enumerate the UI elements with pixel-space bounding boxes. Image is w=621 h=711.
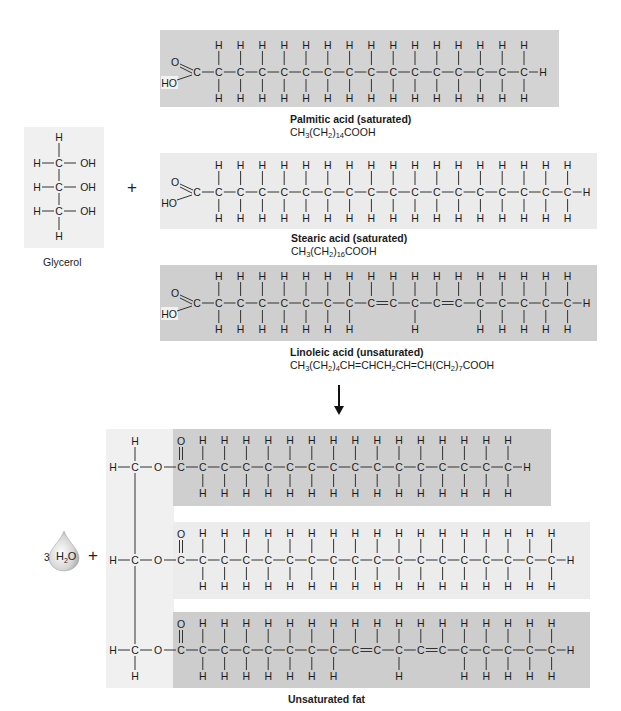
hydrogen-atom: H: [433, 39, 441, 51]
hydroxyl-group: OH: [80, 157, 96, 169]
hydroxyl-group: HO: [161, 77, 177, 89]
hydrogen-atom: H: [477, 39, 485, 51]
carbon-atom: C: [548, 644, 556, 656]
hydrogen-atom: H: [373, 580, 381, 592]
hydrogen-atom: H: [389, 212, 397, 224]
hydrogen-atom: H: [308, 580, 316, 592]
hydrogen-atom: H: [542, 270, 550, 282]
carbon-atom: C: [520, 66, 528, 78]
carbon-atom: C: [368, 186, 376, 198]
water-coefficient: 3: [44, 552, 50, 563]
hydrogen-atom: H: [389, 270, 397, 282]
hydrogen-atom: H: [324, 92, 332, 104]
hydrogen-atom: H: [33, 157, 41, 169]
carbon-atom: C: [433, 186, 441, 198]
hydrogen-atom: H: [330, 434, 338, 446]
carbonyl-oxygen: O: [177, 435, 185, 447]
carbon-atom: C: [411, 186, 419, 198]
hydrogen-atom: H: [243, 670, 251, 682]
carbon-atom: C: [504, 554, 512, 566]
carbon-atom: C: [259, 297, 267, 309]
hydrogen-atom: H: [109, 461, 117, 473]
hydroxyl-group: OH: [80, 181, 96, 193]
water-o: O: [68, 550, 77, 562]
carbon-atom: C: [324, 297, 332, 309]
hydrogen-atom: H: [286, 617, 294, 629]
hydrogen-atom: H: [286, 580, 294, 592]
hydrogen-atom: H: [548, 670, 556, 682]
hydrogen-atom: H: [461, 617, 469, 629]
hydrogen-atom: H: [243, 527, 251, 539]
hydrogen-atom: H: [564, 212, 572, 224]
hydrogen-atom: H: [477, 212, 485, 224]
carbon-atom: C: [542, 297, 550, 309]
carbon-atom: C: [411, 66, 419, 78]
product-plus-sign: +: [88, 546, 98, 566]
carbon-atom: C: [504, 644, 512, 656]
hydrogen-atom: H: [526, 670, 534, 682]
carbon-atom: C: [564, 297, 572, 309]
hydrogen-atom: H: [564, 159, 572, 171]
hydrogen-atom: H: [433, 212, 441, 224]
carbon-atom: C: [259, 186, 267, 198]
carbon-atom: C: [526, 644, 534, 656]
carbon-atom: C: [221, 554, 229, 566]
hydrogen-atom: H: [389, 92, 397, 104]
hydrogen-atom: H: [548, 527, 556, 539]
hydrogen-atom: H: [259, 39, 267, 51]
hydroxyl-group: OH: [80, 205, 96, 217]
carboxyl-carbon: C: [193, 186, 201, 198]
hydrogen-atom: H: [308, 617, 316, 629]
carbon-atom: C: [199, 461, 207, 473]
hydrogen-atom: H: [221, 580, 229, 592]
hydrogen-atom: H: [199, 580, 207, 592]
linoleic-name: Linoleic acid (unsaturated): [290, 346, 494, 359]
hydrogen-atom: H: [286, 434, 294, 446]
hydrogen-atom: H: [498, 212, 506, 224]
hydrogen-atom: H: [215, 159, 223, 171]
carbon-atom: C: [548, 554, 556, 566]
hydrogen-atom: H: [308, 434, 316, 446]
hydrogen-atom: H: [411, 159, 419, 171]
hydrogen-atom: H: [237, 212, 245, 224]
hydrogen-atom: H: [352, 580, 360, 592]
hydrogen-atom: H: [264, 670, 272, 682]
hydrogen-atom: H: [526, 527, 534, 539]
carbon-atom: C: [455, 297, 463, 309]
hydrogen-atom: H: [477, 270, 485, 282]
carbon-atom: C: [215, 297, 223, 309]
linoleic-formula: CH3(CH2)4CH=CHCH2CH=CH(CH2)7COOH: [290, 359, 494, 372]
hydrogen-atom: H: [477, 159, 485, 171]
carbon-atom: C: [433, 66, 441, 78]
hydrogen-atom: H: [461, 580, 469, 592]
carbon-atom: C: [302, 297, 310, 309]
hydrogen-atom: H: [324, 323, 332, 335]
hydrogen-atom: H: [264, 527, 272, 539]
carbonyl-oxygen: O: [171, 56, 179, 68]
hydrogen-atom: H: [199, 527, 207, 539]
hydrogen-atom: H: [417, 617, 425, 629]
hydrogen-atom: H: [455, 212, 463, 224]
hydrogen-atom: H: [302, 159, 310, 171]
carbon-atom: C: [482, 644, 490, 656]
carbon-atom: C: [280, 186, 288, 198]
hydrogen-atom: H: [389, 159, 397, 171]
terminal-hydrogen: H: [539, 66, 547, 78]
hydroxyl-group: HO: [161, 197, 177, 209]
carbon-atom: C: [439, 644, 447, 656]
carbon-atom: C: [237, 66, 245, 78]
hydrogen-atom: H: [368, 92, 376, 104]
carbon-atom: C: [243, 461, 251, 473]
carbon-atom: C: [526, 554, 534, 566]
terminal-hydrogen: H: [583, 186, 591, 198]
hydrogen-atom: H: [346, 39, 354, 51]
hydrogen-atom: H: [324, 159, 332, 171]
carbon-atom: C: [324, 66, 332, 78]
hydrogen-atom: H: [286, 670, 294, 682]
linoleic-caption: Linoleic acid (unsaturated) CH3(CH2)4CH=…: [290, 346, 494, 372]
hydrogen-atom: H: [237, 323, 245, 335]
carbon-atom: C: [259, 66, 267, 78]
hydrogen-atom: H: [417, 434, 425, 446]
hydrogen-atom: H: [498, 270, 506, 282]
hydrogen-atom: H: [243, 434, 251, 446]
